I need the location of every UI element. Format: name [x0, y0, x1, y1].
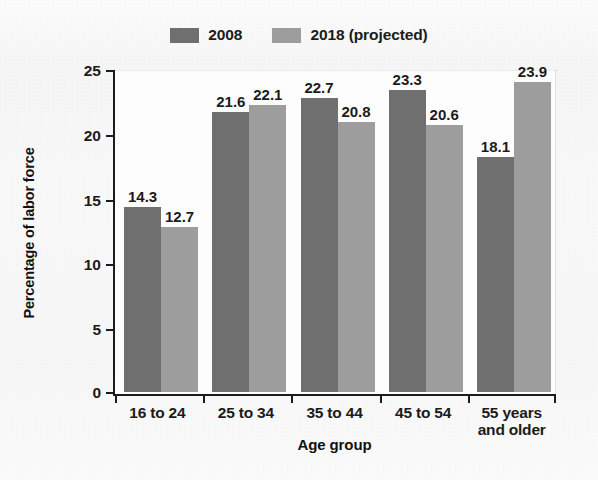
bar-value-label: 21.6	[216, 93, 245, 110]
bar-value-label: 22.7	[304, 79, 333, 96]
x-label-line1: 55 years	[467, 404, 556, 421]
bar-value-label: 20.8	[341, 103, 370, 120]
bar-group-45-to-54: 23.3 20.6	[382, 68, 470, 392]
bar-group-16-to-24: 14.3 12.7	[117, 68, 205, 392]
bar-2018-45-to-54[interactable]: 20.6	[426, 125, 463, 392]
plot-wrapper: 25 20 15 10 5 0	[113, 70, 556, 396]
bar-value-label: 12.7	[165, 208, 194, 225]
x-label-16-to-24: 16 to 24	[113, 404, 202, 439]
y-tick-0: 0	[106, 392, 115, 394]
legend-label-2008: 2008	[208, 26, 242, 44]
bar-value-label: 22.1	[253, 86, 282, 103]
bar-group-55-years-and-older: 18.1 23.9	[470, 68, 558, 392]
bar-rect	[338, 122, 375, 392]
bar-rect	[124, 207, 161, 393]
x-axis-labels: 16 to 24 25 to 34 35 to 44 45 to 54 55 y…	[113, 404, 556, 439]
chart-legend: 2008 2018 (projected)	[0, 26, 598, 44]
x-tick-2	[291, 394, 293, 403]
legend-label-2018-projected: 2018 (projected)	[310, 26, 427, 44]
legend-entry-2008: 2008	[170, 26, 242, 44]
x-tick-4	[468, 394, 470, 403]
x-label-line1: 45 to 54	[379, 404, 468, 421]
y-tick-5: 5	[106, 329, 115, 331]
legend-swatch-2018-projected	[272, 28, 301, 43]
y-tick-label-5: 5	[92, 321, 101, 339]
bar-rect	[514, 82, 551, 392]
bar-2008-16-to-24[interactable]: 14.3	[124, 207, 161, 393]
x-label-35-to-44: 35 to 44	[290, 404, 379, 439]
bar-2008-35-to-44[interactable]: 22.7	[301, 98, 338, 392]
y-tick-10: 10	[106, 264, 115, 266]
legend-entry-2018-projected: 2018 (projected)	[272, 26, 427, 44]
bar-value-label: 23.3	[393, 71, 422, 88]
y-tick-label-25: 25	[84, 62, 101, 80]
bar-rect	[426, 125, 463, 392]
bar-group-25-to-34: 21.6 22.1	[205, 68, 293, 392]
x-label-55-years-and-older: 55 years and older	[467, 404, 556, 439]
y-tick-label-10: 10	[84, 256, 101, 274]
x-label-25-to-34: 25 to 34	[202, 404, 291, 439]
x-tick-start	[115, 394, 117, 403]
bar-2008-55-years-and-older[interactable]: 18.1	[477, 157, 514, 392]
x-axis-title: Age group	[113, 436, 556, 453]
bar-group-35-to-44: 22.7 20.8	[293, 68, 381, 392]
x-tick-1	[203, 394, 205, 403]
bar-value-label: 20.6	[430, 106, 459, 123]
y-tick-15: 15	[106, 200, 115, 202]
x-label-line1: 35 to 44	[290, 404, 379, 421]
y-tick-label-0: 0	[92, 384, 101, 402]
bar-rect	[212, 112, 249, 392]
x-label-45-to-54: 45 to 54	[379, 404, 468, 439]
bar-rect	[477, 157, 514, 392]
bar-groups: 14.3 12.7 21.6 22.1	[117, 68, 558, 392]
y-tick-20: 20	[106, 135, 115, 137]
x-label-line1: 25 to 34	[202, 404, 291, 421]
bar-rect	[161, 227, 198, 392]
legend-swatch-2008	[170, 28, 199, 43]
bar-rect	[249, 105, 286, 392]
bar-value-label: 23.9	[518, 63, 547, 80]
bar-2008-45-to-54[interactable]: 23.3	[389, 90, 426, 392]
y-axis-title: Percentage of labor force	[18, 70, 40, 396]
y-tick-label-15: 15	[84, 192, 101, 210]
bar-2018-55-years-and-older[interactable]: 23.9	[514, 82, 551, 392]
x-tick-end	[554, 394, 556, 403]
bar-2018-25-to-34[interactable]: 22.1	[249, 105, 286, 392]
bar-value-label: 14.3	[128, 188, 157, 205]
bar-rect	[389, 90, 426, 392]
bar-value-label: 18.1	[481, 138, 510, 155]
y-tick-label-20: 20	[84, 127, 101, 145]
bar-rect	[301, 98, 338, 392]
bar-2008-25-to-34[interactable]: 21.6	[212, 112, 249, 392]
y-tick-25: 25	[106, 70, 115, 72]
bar-2018-35-to-44[interactable]: 20.8	[338, 122, 375, 392]
x-label-line1: 16 to 24	[113, 404, 202, 421]
plot-area: 25 20 15 10 5 0	[113, 70, 556, 396]
chart-page: 2008 2018 (projected) Percentage of labo…	[0, 0, 598, 480]
x-tick-3	[380, 394, 382, 403]
bar-2018-16-to-24[interactable]: 12.7	[161, 227, 198, 392]
